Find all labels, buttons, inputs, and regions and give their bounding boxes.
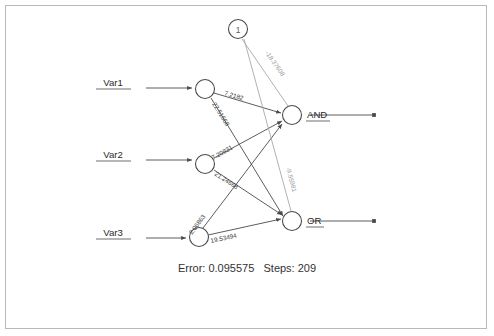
weight-label-hidden2-or: 21.24668 [213,170,240,191]
weight-label-bias-or: -9.55981 [285,166,298,193]
weight-label-bias-and: -18.37608 [264,50,286,78]
output-node-or [283,212,302,231]
figure-caption: Error: 0.095575 Steps: 209 [0,262,494,274]
edge-hidden3-or [208,219,281,235]
figure-viewport: 1 Var1 Var2 Var3 AND OR 7.2182 22.51668 … [0,0,494,336]
network-diagram: 1 Var1 Var2 Var3 AND OR 7.2182 22.51668 … [0,0,494,336]
output-node-and [283,106,302,125]
weight-label-hidden1-or: 22.51668 [211,101,231,128]
output-label-or: OR [307,215,321,226]
weight-label-hidden2-and: 7.20831 [210,143,234,161]
input-label-var2: Var2 [103,149,123,160]
bias-node-label: 1 [236,25,241,35]
edge-bias-or [244,39,291,211]
output-label-and: AND [307,109,327,120]
hidden-node-1 [196,80,215,99]
input-label-var1: Var1 [103,77,123,88]
input-label-var3: Var3 [103,227,123,238]
weight-label-hidden1-and: 7.2182 [224,89,245,101]
